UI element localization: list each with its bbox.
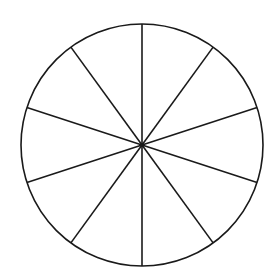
divided-circle-diagram <box>0 0 280 273</box>
sector-divider-line <box>142 145 257 182</box>
sector-divider-line <box>142 145 213 243</box>
sector-divider-line <box>142 47 213 145</box>
sector-divider-line <box>71 47 142 145</box>
center-point <box>140 143 144 147</box>
sector-divider-line <box>27 145 142 182</box>
sector-divider-line <box>27 108 142 145</box>
sector-divider-line <box>71 145 142 243</box>
sector-divider-line <box>142 108 257 145</box>
